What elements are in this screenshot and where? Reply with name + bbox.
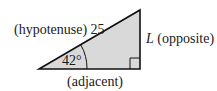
hypotenuse-label: (hypotenuse) 25 [14,22,105,38]
triangle-diagram: 42° (hypotenuse) 25 L (opposite) (adjace… [0,0,217,91]
right-triangle [39,10,140,69]
opposite-label: L (opposite) [145,31,214,47]
angle-label: 42° [62,53,82,68]
opposite-variable: L [145,31,154,46]
opposite-text: (opposite) [154,31,215,47]
adjacent-label: (adjacent) [67,74,123,90]
